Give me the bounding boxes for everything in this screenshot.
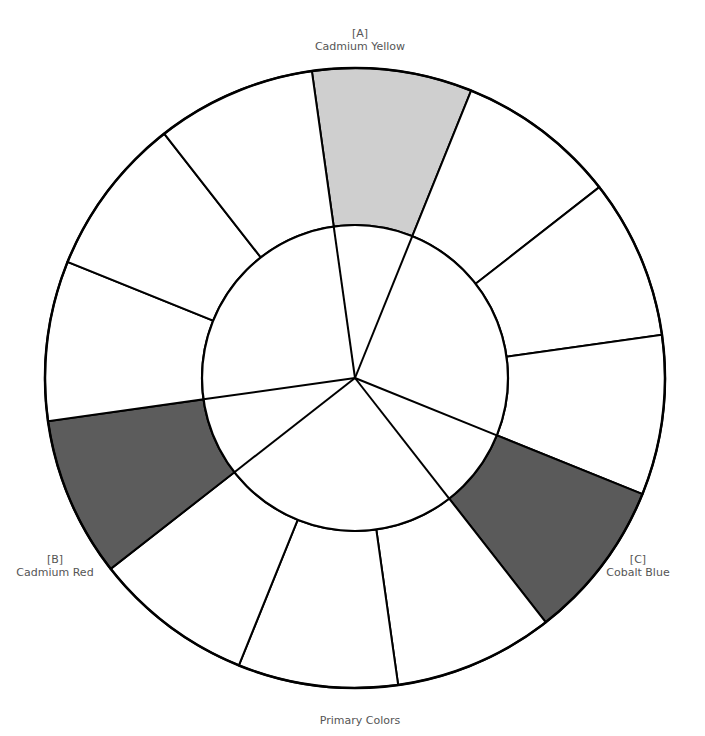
marker-b: [B] — [10, 553, 100, 566]
label-cadmium-yellow: [A] Cadmium Yellow — [285, 27, 435, 53]
name-a: Cadmium Yellow — [285, 40, 435, 53]
marker-a: [A] — [285, 27, 435, 40]
marker-c: [C] — [598, 553, 678, 566]
name-b: Cadmium Red — [10, 566, 100, 579]
diagram-caption: Primary Colors — [290, 714, 430, 727]
color-wheel — [0, 0, 705, 736]
label-cobalt-blue: [C] Cobalt Blue — [598, 553, 678, 579]
label-cadmium-red: [B] Cadmium Red — [10, 553, 100, 579]
name-c: Cobalt Blue — [598, 566, 678, 579]
